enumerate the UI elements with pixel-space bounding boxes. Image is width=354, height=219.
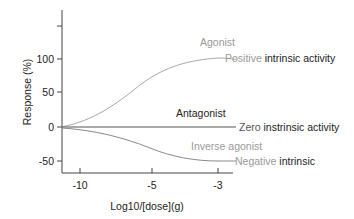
positive-rest: intrinsic activity	[262, 52, 336, 64]
zero-word: Zero	[239, 121, 261, 133]
inverse-agonist-label: Inverse agonist	[191, 140, 262, 152]
x-tick-labels: -10 -5 -3	[72, 179, 222, 191]
negative-rest: intrinsic	[276, 155, 315, 167]
x-axis-label: Log10/[dose](g)	[110, 200, 184, 212]
y-tick-0: 0	[48, 121, 54, 133]
x-ticks	[80, 168, 218, 173]
antagonist-label: Antagonist	[176, 107, 226, 119]
positive-word: Positive	[225, 52, 262, 64]
positive-intrinsic-label: Positive intrinsic activity	[225, 52, 336, 64]
y-tick-100: 100	[36, 53, 54, 65]
y-tick-labels: 100 50 0 -50	[36, 53, 54, 167]
negative-word: Negative	[235, 155, 277, 167]
y-tick-minus-50: -50	[39, 155, 54, 167]
y-ticks	[57, 26, 62, 161]
x-tick-minus-10: -10	[72, 179, 87, 191]
y-tick-50: 50	[42, 86, 54, 98]
zero-intrinsic-label: Zero instrinsic activity	[239, 121, 340, 133]
x-tick-minus-3: -3	[213, 179, 222, 191]
y-axis-label: Response (%)	[21, 59, 33, 126]
dose-response-chart: 100 50 0 -50 -10 -5 -3 Response (%) Log1…	[0, 0, 354, 219]
x-tick-minus-5: -5	[147, 179, 156, 191]
zero-rest: instrinsic activity	[261, 121, 341, 133]
negative-intrinsic-label: Negative intrinsic	[235, 155, 315, 167]
agonist-label: Agonist	[200, 36, 235, 48]
